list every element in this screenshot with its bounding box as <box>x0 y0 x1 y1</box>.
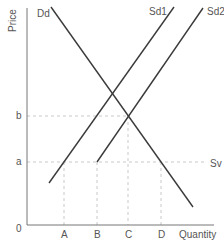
tick-label-D: D <box>158 229 165 240</box>
curve-label-dd: Dd <box>37 8 50 19</box>
tick-label-b: b <box>16 110 22 121</box>
tick-label-a: a <box>16 156 22 167</box>
y-axis-label: Price <box>7 9 18 32</box>
supply-curve-sd2 <box>97 8 203 162</box>
x-axis-label: Quantity <box>179 229 216 240</box>
supply-demand-diagram: Price Quantity 0 b a A B C D Dd Sd1 Sd2 … <box>0 0 224 242</box>
curve-label-sd2: Sd2 <box>207 6 224 17</box>
curve-label-sd1: Sd1 <box>149 6 167 17</box>
demand-curve-dd <box>51 7 193 207</box>
tick-label-A: A <box>61 229 68 240</box>
tick-label-B: B <box>94 229 101 240</box>
origin-label: 0 <box>16 223 22 234</box>
tick-label-C: C <box>125 229 132 240</box>
supply-curve-sd1 <box>49 7 174 183</box>
curve-label-sv: Sv <box>210 158 222 169</box>
